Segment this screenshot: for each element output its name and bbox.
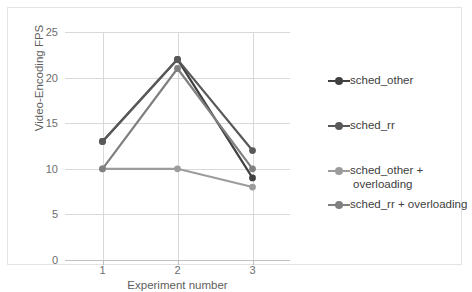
data-point-marker (99, 138, 106, 145)
legend-item-0[interactable]: sched_other (328, 74, 413, 88)
data-point-marker (249, 184, 256, 191)
x-axis-tick-labels: 123 (65, 264, 290, 280)
y-tick-label: 10 (46, 163, 58, 175)
legend-marker-icon (328, 120, 350, 132)
x-tick-label: 2 (174, 264, 180, 276)
legend-item-1[interactable]: sched_rr (328, 119, 395, 133)
y-tick-label: 25 (46, 26, 58, 38)
legend-item-label: sched_other (350, 74, 413, 88)
x-axis-title: Experiment number (65, 279, 290, 291)
legend-marker-icon (328, 165, 350, 177)
y-tick-label: 15 (46, 117, 58, 129)
data-point-marker (249, 175, 256, 182)
chart-screenshot: 0510152025 Video-Encoding FPS 123 Experi… (0, 0, 472, 292)
data-point-marker (99, 165, 106, 172)
legend-item-2[interactable]: sched_other +overloading (328, 164, 423, 191)
data-point-marker (174, 56, 181, 63)
plot-area (65, 32, 290, 260)
series-line-0 (103, 59, 253, 178)
legend-item-3[interactable]: sched_rr + overloading (328, 198, 467, 212)
legend-item-label: sched_rr (350, 119, 395, 133)
data-point-marker (249, 147, 256, 154)
data-point-marker (174, 65, 181, 72)
data-point-marker (174, 165, 181, 172)
legend-marker-icon (328, 199, 350, 211)
y-axis-title: Video-Encoding FPS (33, 3, 45, 153)
y-tick-label: 5 (52, 208, 58, 220)
series-line-3 (103, 68, 253, 168)
series-lines (65, 32, 290, 260)
x-tick-label: 1 (99, 264, 105, 276)
legend-marker-icon (328, 75, 350, 87)
y-tick-label: 0 (52, 254, 58, 266)
chart-frame: 0510152025 Video-Encoding FPS 123 Experi… (7, 7, 462, 265)
x-tick-label: 3 (249, 264, 255, 276)
y-tick-label: 20 (46, 72, 58, 84)
legend-item-label: sched_rr + overloading (350, 198, 467, 212)
legend-item-label: sched_other +overloading (350, 164, 423, 191)
data-point-marker (249, 165, 256, 172)
